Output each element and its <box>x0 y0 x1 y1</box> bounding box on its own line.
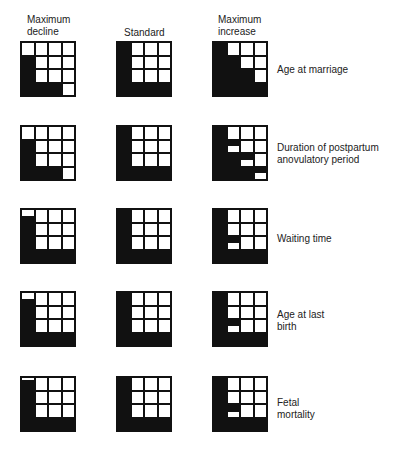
grid-cell <box>254 42 268 56</box>
grid-cell <box>254 319 268 333</box>
grid-cell <box>131 209 145 223</box>
grid-decline-row-2 <box>20 208 76 264</box>
grid-cell <box>254 377 268 391</box>
header-standard: Standard <box>124 27 165 39</box>
grid-cell <box>240 319 254 333</box>
grid-cell <box>48 126 62 140</box>
grid-cell <box>35 319 49 333</box>
grid-cell <box>227 42 241 56</box>
grid-standard-row-0 <box>116 41 172 97</box>
grid-cell <box>144 42 158 56</box>
grid-cell <box>240 404 254 418</box>
grid-cell <box>158 153 172 167</box>
grid-cell <box>144 126 158 140</box>
grid-cell <box>240 42 254 56</box>
grid-cell <box>144 56 158 70</box>
grid-cell <box>35 42 49 56</box>
grid-standard-row-2 <box>116 208 172 264</box>
row-label-waiting-time: Waiting time <box>277 233 332 245</box>
grid-cell <box>227 306 241 320</box>
grid-cell <box>144 223 158 237</box>
grid-cell <box>62 126 76 140</box>
grid-decline-row-3 <box>20 291 76 347</box>
grid-cell <box>254 167 268 181</box>
grid-cell <box>144 306 158 320</box>
grid-cell <box>48 153 62 167</box>
grid-cell <box>144 404 158 418</box>
grid-cell <box>254 236 268 250</box>
grid-cell <box>240 377 254 391</box>
grid-cell <box>48 209 62 223</box>
grid-cell <box>131 306 145 320</box>
grid-cell <box>21 126 35 140</box>
grid-decline-row-4 <box>20 376 76 432</box>
grid-cell <box>158 391 172 405</box>
grid-cell <box>131 69 145 83</box>
grid-cell <box>131 153 145 167</box>
grid-cell <box>158 236 172 250</box>
grid-cell <box>240 223 254 237</box>
grid-cell <box>144 319 158 333</box>
grid-cell <box>227 223 241 237</box>
grid-cell <box>131 391 145 405</box>
grid-decline-row-0 <box>20 41 76 97</box>
grid-cell <box>62 56 76 70</box>
grid-cell <box>158 404 172 418</box>
grid-cell <box>48 306 62 320</box>
grid-cell <box>158 140 172 154</box>
grid-cell <box>240 236 254 250</box>
grid-cell <box>227 140 241 154</box>
grid-cell <box>227 126 241 140</box>
grid-cell <box>144 209 158 223</box>
grid-cell <box>240 126 254 140</box>
grid-cell <box>254 391 268 405</box>
grid-cell <box>158 42 172 56</box>
grid-cell <box>62 153 76 167</box>
grid-cell <box>21 377 35 391</box>
grid-cell <box>144 377 158 391</box>
grid-cell <box>240 292 254 306</box>
grid-cell <box>227 209 241 223</box>
grid-cell <box>62 236 76 250</box>
grid-increase-row-3 <box>212 291 268 347</box>
grid-cell <box>227 404 241 418</box>
grid-cell <box>35 209 49 223</box>
grid-cell <box>240 209 254 223</box>
grid-cell <box>131 236 145 250</box>
grid-cell <box>48 56 62 70</box>
grid-cell <box>240 56 254 70</box>
row-label-postpartum-anovulatory: Duration of postpartum anovulatory perio… <box>277 142 379 166</box>
grid-increase-row-2 <box>212 208 268 264</box>
grid-cell <box>158 377 172 391</box>
grid-cell <box>158 319 172 333</box>
grid-cell <box>144 391 158 405</box>
grid-cell <box>35 404 49 418</box>
grid-cell <box>254 153 268 167</box>
grid-increase-row-4 <box>212 376 268 432</box>
grid-cell <box>158 306 172 320</box>
grid-cell <box>62 292 76 306</box>
grid-cell <box>144 69 158 83</box>
grid-cell <box>131 223 145 237</box>
grid-cell <box>62 42 76 56</box>
grid-cell <box>254 404 268 418</box>
grid-cell <box>254 209 268 223</box>
grid-cell <box>131 126 145 140</box>
grid-cell <box>131 42 145 56</box>
grid-cell <box>227 236 241 250</box>
header-maximum-increase: Maximum increase <box>218 14 261 38</box>
grid-cell <box>62 83 76 97</box>
grid-decline-row-1 <box>20 125 76 181</box>
grid-cell <box>62 391 76 405</box>
grid-cell <box>227 391 241 405</box>
grid-cell <box>227 319 241 333</box>
grid-cell <box>254 126 268 140</box>
grid-standard-row-4 <box>116 376 172 432</box>
grid-cell <box>62 404 76 418</box>
grid-increase-row-1 <box>212 125 268 181</box>
grid-cell <box>254 292 268 306</box>
grid-cell <box>35 391 49 405</box>
grid-cell <box>158 292 172 306</box>
grid-cell <box>158 209 172 223</box>
grid-cell <box>21 292 35 306</box>
